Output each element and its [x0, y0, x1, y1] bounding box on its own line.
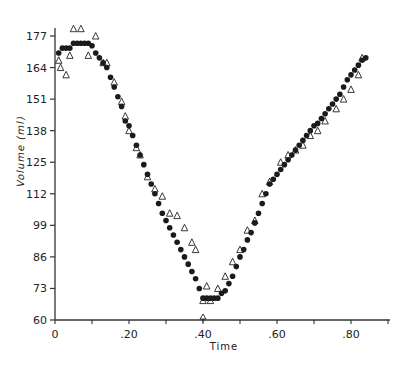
data-point-triangle — [174, 212, 181, 219]
data-point-triangle — [126, 127, 133, 134]
data-point-circle — [193, 276, 199, 282]
data-point-triangle — [181, 224, 188, 231]
y-tick-label: 138 — [26, 125, 47, 138]
data-point-circle — [337, 91, 343, 97]
data-point-triangle — [159, 193, 166, 200]
data-point-triangle — [166, 210, 173, 217]
data-point-triangle — [78, 25, 85, 32]
data-point-circle — [67, 45, 73, 51]
y-tick-label: 73 — [33, 282, 47, 295]
data-point-circle — [330, 101, 336, 107]
y-tick-label: 112 — [26, 188, 47, 201]
data-point-circle — [93, 50, 99, 56]
data-point-circle — [56, 50, 62, 56]
scatter-chart: 60738699112125138151164177 0.20.40.60.80… — [0, 0, 406, 366]
data-point-triangle — [85, 52, 92, 59]
data-point-triangle — [348, 86, 355, 93]
annotation-arrow-icon — [200, 314, 206, 322]
y-tick-label: 151 — [26, 93, 47, 106]
data-point-triangle — [57, 64, 64, 71]
y-tick-label: 86 — [33, 251, 47, 264]
y-tick-label: 99 — [33, 219, 47, 232]
data-point-triangle — [229, 258, 236, 265]
data-point-circle — [167, 225, 173, 231]
data-point-circle — [148, 181, 154, 187]
data-point-circle — [215, 295, 221, 301]
data-point-triangle — [189, 239, 196, 246]
data-point-circle — [189, 269, 195, 275]
x-axis-title: Time — [209, 341, 238, 352]
data-point-circle — [356, 62, 362, 68]
x-tick-label: .80 — [342, 328, 360, 341]
data-point-circle — [237, 254, 243, 260]
data-point-circle — [185, 261, 191, 267]
data-point-circle — [174, 240, 180, 246]
data-point-circle — [171, 232, 177, 238]
y-tick-label: 164 — [26, 62, 47, 75]
x-tick-label: .20 — [120, 328, 138, 341]
data-point-circle — [160, 210, 166, 216]
data-point-circle — [226, 281, 232, 287]
data-point-circle — [182, 254, 188, 260]
data-point-triangle — [63, 71, 70, 78]
series-triangles — [55, 25, 365, 303]
series-circles — [56, 40, 369, 300]
y-tick-label: 125 — [26, 156, 47, 169]
data-point-circle — [259, 201, 265, 207]
data-point-circle — [163, 218, 169, 224]
y-axis: 60738699112125138151164177 — [26, 28, 55, 327]
data-point-triangle — [244, 227, 251, 234]
x-tick-label: 0 — [52, 328, 59, 341]
data-point-circle — [256, 210, 262, 216]
data-point-triangle — [222, 273, 229, 280]
data-point-triangle — [55, 57, 62, 64]
x-axis: 0.20.40.60.80 — [52, 320, 391, 341]
data-point-circle — [322, 111, 328, 117]
data-point-triangle — [67, 52, 74, 59]
x-tick-label: .60 — [268, 328, 286, 341]
data-point-circle — [352, 67, 358, 73]
data-point-circle — [345, 77, 351, 83]
data-point-triangle — [70, 25, 77, 32]
data-point-circle — [115, 94, 121, 100]
data-point-circle — [315, 121, 321, 127]
y-tick-label: 60 — [33, 314, 47, 327]
data-point-circle — [89, 43, 95, 49]
data-point-circle — [348, 72, 354, 78]
data-point-circle — [245, 237, 251, 243]
data-point-circle — [333, 96, 339, 102]
data-point-circle — [178, 247, 184, 253]
data-point-circle — [156, 201, 162, 207]
x-tick-label: .40 — [194, 328, 212, 341]
data-point-circle — [97, 55, 103, 61]
data-point-circle — [222, 288, 228, 294]
data-point-circle — [108, 74, 114, 80]
data-point-triangle — [215, 285, 222, 292]
data-point-triangle — [92, 33, 99, 40]
data-point-circle — [326, 106, 332, 112]
data-point-circle — [230, 274, 236, 280]
y-axis-title: Volume (ml) — [15, 114, 26, 188]
data-point-triangle — [192, 246, 199, 253]
data-point-triangle — [122, 113, 129, 120]
data-point-triangle — [277, 159, 284, 166]
data-point-circle — [141, 162, 147, 168]
data-point-circle — [197, 286, 203, 292]
y-tick-label: 177 — [26, 30, 47, 43]
data-point-circle — [341, 84, 347, 90]
data-point-triangle — [203, 283, 210, 290]
data-point-circle — [278, 167, 284, 173]
data-point-circle — [274, 172, 280, 178]
